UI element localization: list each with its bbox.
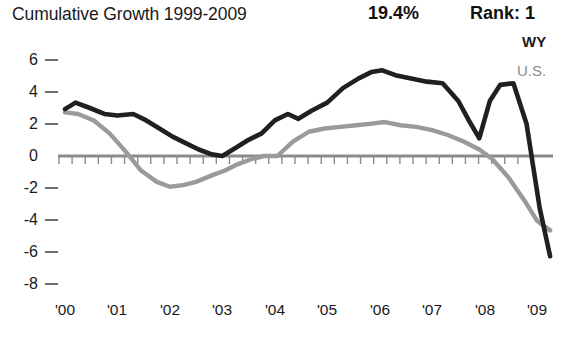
growth-chart: Cumulative Growth 1999-2009 19.4% Rank: … xyxy=(0,0,581,337)
plot-area xyxy=(0,0,581,337)
series-line-us xyxy=(65,112,550,230)
